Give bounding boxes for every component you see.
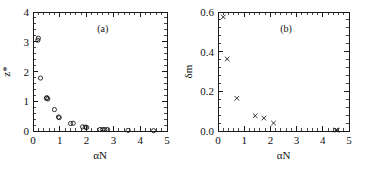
y-tick-label: 0.4 [200,46,214,58]
data-point [71,121,75,125]
x-axis-label: αN [277,149,291,161]
data-point [38,76,42,80]
panel-label: (a) [97,23,108,35]
data-point [235,96,240,101]
x-tick-label: 4 [137,134,143,146]
x-tick-label: 3 [111,134,117,146]
x-tick-label: 2 [84,134,90,146]
y-tick-label: 0.0 [200,125,214,137]
x-tick-label: 1 [241,134,247,146]
x-tick-label: 1 [57,134,63,146]
x-tick-label: 2 [268,134,274,146]
x-tick-label: 4 [320,134,326,146]
x-tick-label: 5 [346,134,352,146]
y-axis-label: δm [183,64,194,78]
data-point [271,121,276,126]
y-tick-label: 3 [24,36,30,48]
x-tick-label: 5 [164,134,170,146]
scatter-plot-a: 01234501234αNz*(a) [0,0,182,177]
chart-panel-b: 0123450.00.20.40.6αNδm(b) [183,0,365,177]
data-point [262,116,267,121]
y-tick-label: 1 [24,95,30,107]
chart-panel-a: 01234501234αNz*(a) [0,0,182,177]
y-tick-label: 0 [24,125,30,137]
x-axis-label: αN [93,149,107,161]
y-tick-label: 2 [24,66,30,78]
y-tick-label: 0.6 [200,6,214,18]
panel-label: (b) [280,23,292,35]
data-point [221,15,226,20]
data-point [253,113,258,118]
x-tick-label: 0 [215,134,221,146]
y-tick-label: 0.2 [200,85,214,97]
y-tick-label: 4 [24,6,30,18]
x-tick-label: 3 [294,134,300,146]
scatter-plot-b: 0123450.00.20.40.6αNδm(b) [183,0,365,177]
figure-root: 01234501234αNz*(a) 0123450.00.20.40.6αNδ… [0,0,365,177]
y-axis-label: z* [0,66,12,76]
data-point [52,107,56,111]
x-tick-label: 0 [30,134,36,146]
data-point [225,57,230,62]
